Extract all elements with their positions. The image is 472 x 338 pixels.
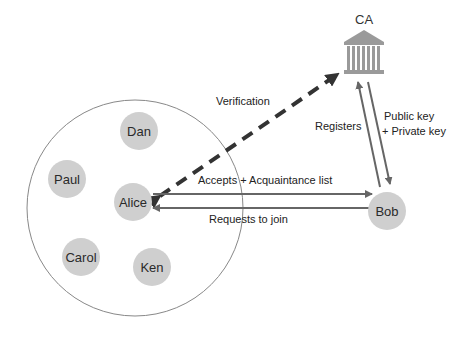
verification-label: Verification xyxy=(216,95,270,108)
node-paul[interactable]: Paul xyxy=(48,160,86,198)
accepts-label: Accepts + Acquaintance list xyxy=(198,174,332,187)
node-ken[interactable]: Ken xyxy=(133,248,171,286)
node-alice[interactable]: Alice xyxy=(114,183,152,221)
keys-label-line2: + Private key xyxy=(382,125,446,138)
ca-label: CA xyxy=(355,12,373,27)
node-bob[interactable]: Bob xyxy=(368,192,406,230)
bank-building-icon xyxy=(344,30,384,74)
registers-label: Registers xyxy=(315,120,361,133)
node-dan[interactable]: Dan xyxy=(120,112,158,150)
registers-arrow xyxy=(358,82,380,187)
requests-label: Requests to join xyxy=(209,213,288,226)
keys-label-line1: Public key xyxy=(384,110,434,123)
node-carol[interactable]: Carol xyxy=(62,238,100,276)
